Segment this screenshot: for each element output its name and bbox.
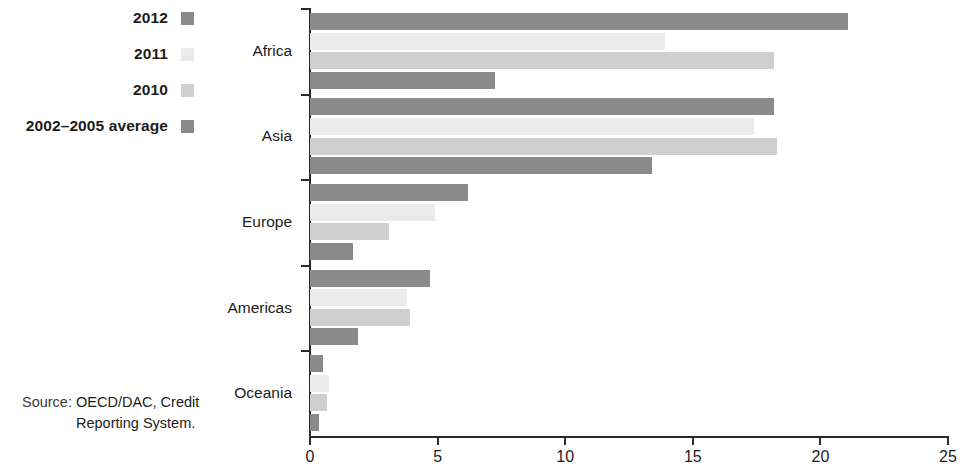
bar-europe-0 — [310, 184, 468, 201]
category-label-asia: Asia — [262, 127, 292, 145]
bar-africa-3 — [310, 72, 495, 89]
chart-plot-area: AfricaAsiaEuropeAmericasOceania 05101520… — [310, 8, 948, 436]
x-axis-tick-label: 25 — [939, 448, 957, 466]
bar-asia-0 — [310, 98, 774, 115]
legend-item[interactable]: 2012 — [0, 0, 300, 36]
x-axis-tick — [564, 436, 566, 445]
y-axis-tick — [301, 265, 310, 267]
bar-africa-0 — [310, 13, 848, 30]
x-axis-tick-label: 5 — [433, 448, 442, 466]
bar-europe-3 — [310, 243, 353, 260]
x-axis-tick — [692, 436, 694, 445]
bar-africa-1 — [310, 33, 665, 50]
bar-asia-3 — [310, 157, 652, 174]
bar-oceania-1 — [310, 375, 329, 392]
x-axis-line — [309, 436, 948, 438]
bar-europe-1 — [310, 204, 435, 221]
x-axis-tick-label: 10 — [556, 448, 574, 466]
bar-group: Americas — [310, 265, 948, 351]
bar-group: Oceania — [310, 350, 948, 436]
legend-item-label: 2012 — [133, 9, 168, 27]
x-axis-tick — [309, 436, 311, 445]
bar-oceania-0 — [310, 355, 323, 372]
x-axis-tick — [947, 436, 949, 445]
y-axis-tick — [301, 94, 310, 96]
y-axis-tick — [301, 179, 310, 181]
legend-swatch-2010 — [181, 84, 194, 97]
bar-europe-2 — [310, 223, 389, 240]
source-prefix: Source: — [22, 394, 72, 410]
legend-item-label: 2010 — [133, 81, 168, 99]
source-text: OECD/DAC, Credit Reporting System. — [76, 392, 228, 434]
bar-africa-2 — [310, 52, 774, 69]
legend-swatch-2012 — [181, 12, 194, 25]
bar-americas-3 — [310, 328, 358, 345]
source-note: Source: OECD/DAC, Credit Reporting Syste… — [0, 392, 228, 434]
x-axis-tick-label: 20 — [811, 448, 829, 466]
bar-oceania-3 — [310, 414, 319, 431]
category-label-oceania: Oceania — [234, 384, 292, 402]
y-axis-tick-top — [301, 8, 310, 10]
bar-americas-2 — [310, 309, 410, 326]
bar-asia-1 — [310, 118, 754, 135]
bar-americas-1 — [310, 289, 407, 306]
x-axis-tick-label: 15 — [684, 448, 702, 466]
category-label-americas: Americas — [227, 299, 292, 317]
category-label-africa: Africa — [252, 42, 292, 60]
y-axis-tick — [301, 350, 310, 352]
bar-group: Africa — [310, 8, 948, 94]
x-axis-tick-label: 0 — [306, 448, 315, 466]
bar-oceania-2 — [310, 394, 327, 411]
x-axis-tick — [437, 436, 439, 445]
category-label-europe: Europe — [242, 213, 292, 231]
bar-asia-2 — [310, 138, 777, 155]
legend-swatch-2011 — [181, 48, 194, 61]
bar-group: Europe — [310, 179, 948, 265]
legend-swatch-average — [181, 120, 194, 133]
legend-item[interactable]: 2002–2005 average — [0, 108, 300, 144]
legend-item[interactable]: 2010 — [0, 72, 300, 108]
x-axis-tick — [819, 436, 821, 445]
legend-item-label: 2002–2005 average — [26, 117, 168, 135]
legend-item-label: 2011 — [134, 45, 168, 63]
chart-legend: 2012201120102002–2005 average — [0, 0, 300, 144]
bar-group: Asia — [310, 94, 948, 180]
bar-americas-0 — [310, 270, 430, 287]
